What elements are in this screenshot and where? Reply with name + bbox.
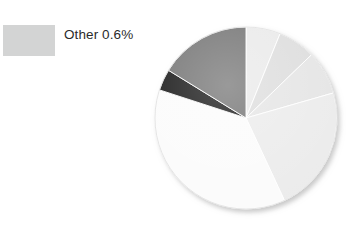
pie-chart-svg [149,21,349,221]
pie-sheen-overlay [155,27,337,209]
pie-chart-figure: Other 0.6% [0,0,355,245]
legend-swatch-other [3,25,55,56]
pie-chart [149,21,349,221]
legend-label-other: Other 0.6% [64,27,133,43]
legend: Other 0.6% [3,25,133,56]
